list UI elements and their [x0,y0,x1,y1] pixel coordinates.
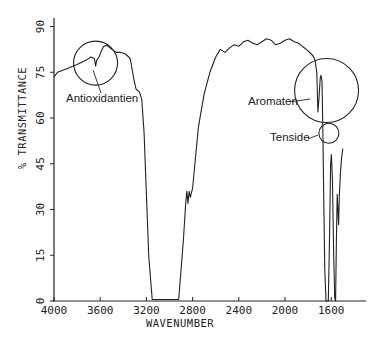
ir-spectrum-chart: 0153045607590 40003600320028002400200016… [0,0,385,341]
x-tick-label: 3600 [87,304,114,317]
x-tick-label: 1600 [318,304,345,317]
y-tick-label: 60 [34,111,47,124]
y-tick-label: 15 [34,249,47,262]
y-tick-label: 75 [34,66,47,79]
y-tick-label: 30 [34,203,47,216]
spectrum-line [54,39,343,301]
annotation-label: Aromaten [248,95,298,107]
y-tick-label: 90 [34,20,47,33]
annotation-label: Tenside [270,131,310,143]
y-tick-label: 45 [34,157,47,170]
x-axis-title: WAVENUMBER [146,317,214,329]
annotation-leader [93,70,101,93]
x-tick-label: 3200 [133,304,160,317]
annotation-circle [295,59,359,123]
x-tick-label: 2400 [226,304,253,317]
x-ticks: 4000360032002800240020001600 [41,297,345,317]
annotations: AntioxidantienAromatenTenside [66,41,359,143]
x-tick-label: 4000 [41,304,68,317]
x-tick-label: 2000 [272,304,299,317]
annotation-label: Antioxidantien [66,92,138,104]
y-ticks: 0153045607590 [34,20,54,304]
y-axis-title: % TRANSMITTANCE [16,67,28,169]
annotation-circle [319,123,339,143]
axes [53,18,366,301]
x-tick-label: 2800 [179,304,206,317]
